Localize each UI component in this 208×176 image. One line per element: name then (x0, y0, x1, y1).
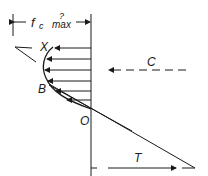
label-c: C (147, 55, 156, 69)
label-t: T (134, 151, 143, 165)
label-b: B (38, 82, 46, 96)
label-fc: f (31, 15, 36, 30)
label-fc-subscript: c (39, 21, 44, 31)
label-x: X (39, 40, 49, 54)
label-o: O (80, 114, 89, 128)
stress-arrows (45, 48, 91, 100)
dimension-fc-max (13, 14, 91, 176)
stress-distribution-diagram: f c max ? X B O C T (0, 0, 208, 176)
strain-lines (15, 47, 195, 168)
label-question: ? (59, 11, 64, 21)
